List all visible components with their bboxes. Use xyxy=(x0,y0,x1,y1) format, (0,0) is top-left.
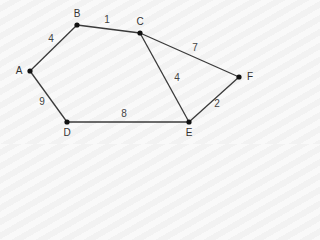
edge-weight-a-b: 4 xyxy=(48,33,54,44)
node-b-dot xyxy=(74,22,79,27)
edge-b-c xyxy=(77,25,140,33)
node-c-label: C xyxy=(136,16,143,27)
edge-weight-a-d: 9 xyxy=(39,96,45,107)
edge-weight-e-f: 2 xyxy=(214,98,220,109)
nodes-layer xyxy=(27,22,241,124)
edge-c-e xyxy=(140,33,189,122)
node-f-label: F xyxy=(247,71,253,82)
edge-weight-c-e: 4 xyxy=(174,72,180,83)
node-d-dot xyxy=(64,119,69,124)
node-c-dot xyxy=(137,30,142,35)
edge-weight-b-c: 1 xyxy=(104,14,110,25)
edge-a-d xyxy=(30,71,67,122)
edge-weight-d-e: 8 xyxy=(121,108,127,119)
node-a-dot xyxy=(27,68,32,73)
graph-diagram: 4174298 ABCDEF xyxy=(0,0,264,144)
node-e-dot xyxy=(186,119,191,124)
node-d-label: D xyxy=(63,127,70,138)
node-b-label: B xyxy=(74,8,81,19)
edges-layer xyxy=(30,25,239,122)
edge-c-f xyxy=(140,33,239,77)
node-a-label: A xyxy=(16,65,23,76)
node-e-label: E xyxy=(186,127,193,138)
edge-weight-c-f: 7 xyxy=(192,42,198,53)
edge-labels-layer: 4174298 xyxy=(39,14,220,119)
node-f-dot xyxy=(236,74,241,79)
node-labels-layer: ABCDEF xyxy=(16,8,253,138)
